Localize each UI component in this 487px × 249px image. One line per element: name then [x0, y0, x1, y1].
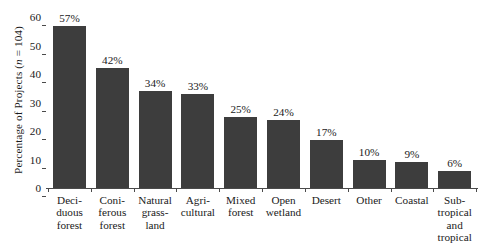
x-axis-category-label-line: wetland: [262, 206, 305, 218]
x-axis-category-label-line: grass-: [134, 206, 177, 218]
y-axis-tick-mark: [42, 25, 46, 26]
y-axis-tick-mark: [42, 111, 46, 112]
x-axis-category-label-line: tropical: [433, 206, 476, 218]
x-axis-tick-mark: [305, 188, 306, 192]
x-axis-tick-mark: [91, 188, 92, 192]
x-axis-category-label-line: forest: [91, 219, 134, 231]
x-axis-category-label-line: Open: [262, 194, 305, 206]
y-axis-tick-mark: [42, 54, 46, 55]
bar-value-label: 24%: [257, 106, 310, 118]
x-axis-tick-mark: [48, 188, 49, 192]
x-axis-category-label-line: Desert: [305, 194, 348, 206]
bar: [224, 117, 257, 188]
y-axis-tick-label: 20: [1, 126, 41, 136]
y-axis-tick-label: 10: [1, 155, 41, 165]
x-axis-category-label-line: and: [433, 219, 476, 231]
x-axis-category-label-line: Agri-: [176, 194, 219, 206]
bar: [139, 91, 172, 188]
bar-value-label: 33%: [171, 80, 224, 92]
x-axis-category-label: Agri-cultural: [176, 194, 219, 219]
x-axis-category-label-line: Coni-: [91, 194, 134, 206]
y-axis-title-n-italic: n: [12, 59, 24, 65]
bar: [310, 140, 343, 188]
bar: [53, 26, 86, 188]
bar: [438, 171, 471, 188]
x-axis-category-label-line: cultural: [176, 206, 219, 218]
bar-chart-figure: Percentage of Projects (n = 104) 0102030…: [0, 0, 487, 249]
x-axis-category-label-line: Deci-: [48, 194, 91, 206]
y-axis-tick-label: 50: [1, 41, 41, 51]
x-axis-category-label: Coastal: [390, 194, 433, 206]
x-axis-tick-mark: [176, 188, 177, 192]
y-axis-tick-mark: [42, 82, 46, 83]
bar: [181, 94, 214, 188]
bar-value-label: 42%: [86, 54, 139, 66]
x-axis-tick-mark: [391, 188, 392, 192]
y-axis-tick-mark: [42, 196, 46, 197]
x-axis-tick-mark: [433, 188, 434, 192]
bar-value-label: 6%: [428, 157, 481, 169]
x-axis-tick-mark: [134, 188, 135, 192]
x-axis-category-label-line: Mixed: [219, 194, 262, 206]
bar-value-label: 17%: [300, 126, 353, 138]
x-axis-category-label-line: tropical: [433, 231, 476, 243]
bar-value-label: 57%: [43, 12, 96, 24]
x-axis-category-label: Other: [348, 194, 391, 206]
x-axis-category-label-line: Natural: [134, 194, 177, 206]
y-axis-tick-label: 40: [1, 69, 41, 79]
x-axis-category-label-line: ferous: [91, 206, 134, 218]
x-axis-category-label: Naturalgrass-land: [134, 194, 177, 231]
x-axis-category-label: Openwetland: [262, 194, 305, 219]
x-axis-tick-mark: [348, 188, 349, 192]
x-axis-tick-mark: [262, 188, 263, 192]
x-axis-category-label: Sub-tropicalandtropical: [433, 194, 476, 244]
x-axis-category-label-line: land: [134, 219, 177, 231]
x-axis-category-label-line: Other: [348, 194, 391, 206]
bar: [267, 120, 300, 188]
bar: [395, 162, 428, 188]
x-axis-category-label: Coni-ferousforest: [91, 194, 134, 231]
x-axis-tick-mark: [476, 188, 477, 192]
y-axis-tick-label: 30: [1, 98, 41, 108]
x-axis-category-label: Desert: [305, 194, 348, 206]
x-axis-category-label-line: Coastal: [390, 194, 433, 206]
x-axis-category-label-line: forest: [48, 219, 91, 231]
bar: [353, 160, 386, 189]
x-axis-category-label-line: Sub-: [433, 194, 476, 206]
x-axis-category-label: Deci-duousforest: [48, 194, 91, 231]
x-axis-category-label-line: duous: [48, 206, 91, 218]
y-axis-tick-label: 60: [1, 12, 41, 22]
x-axis-tick-mark: [219, 188, 220, 192]
x-axis-category-label: Mixedforest: [219, 194, 262, 219]
y-axis-tick-mark: [42, 168, 46, 169]
y-axis-tick-mark: [42, 139, 46, 140]
y-axis-tick-label: 0: [1, 183, 41, 193]
bar: [96, 68, 129, 188]
x-axis-category-label-line: forest: [219, 206, 262, 218]
